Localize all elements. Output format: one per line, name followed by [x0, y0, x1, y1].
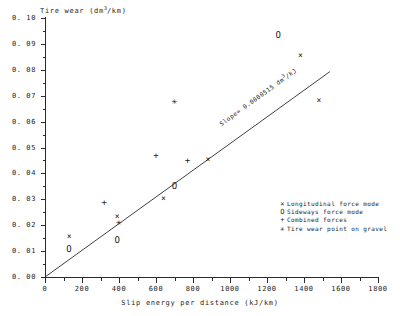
x-axis-tick-label: 1600	[331, 285, 350, 293]
x-axis-minor-tick	[138, 278, 139, 281]
y-axis-tick-label: 0. 02	[2, 221, 36, 229]
x-axis-tick-label: 200	[75, 285, 89, 293]
legend-marker-icon: ✳	[278, 225, 287, 233]
x-axis-minor-tick	[323, 278, 324, 281]
y-axis-tick-label: 0. 04	[2, 169, 36, 177]
data-point-marker: +	[101, 198, 106, 206]
y-axis-tick-label: 0. 03	[2, 195, 36, 203]
x-axis-tick	[378, 278, 379, 283]
data-point-marker: O	[275, 31, 280, 39]
x-axis-tick-label: 1000	[220, 285, 239, 293]
y-axis-tick-label: 0. 06	[2, 118, 36, 126]
legend-item: ✳Tire wear point on gravel	[278, 225, 387, 233]
y-axis-tick-label: 0. 10	[2, 14, 36, 22]
x-axis-minor-tick	[175, 278, 176, 281]
data-point-marker: ×	[67, 233, 72, 241]
y-axis-title-unit: /km)	[107, 7, 127, 15]
x-axis-tick-label: 800	[186, 285, 200, 293]
legend-marker-icon: +	[278, 216, 287, 224]
x-axis-minor-tick	[64, 278, 65, 281]
data-point-marker: O	[66, 245, 71, 253]
data-point-marker: ×	[205, 156, 210, 164]
y-axis-tick-label: 0. 00	[2, 273, 36, 281]
x-axis-minor-tick	[286, 278, 287, 281]
legend-item-label: Combined forces	[287, 216, 347, 224]
data-point-marker: ×	[298, 52, 303, 60]
y-axis-tick-label: 0. 07	[2, 92, 36, 100]
x-axis-tick	[82, 278, 83, 283]
data-point-marker: ×	[161, 195, 166, 203]
data-point-marker: O	[114, 236, 119, 244]
x-axis-tick-label: 1400	[294, 285, 313, 293]
legend-item: ×Longitudinal force mode	[278, 200, 387, 208]
x-axis-minor-tick	[249, 278, 250, 281]
data-point-marker: +	[185, 156, 190, 164]
legend-marker-icon: ×	[278, 200, 287, 208]
x-axis-tick	[341, 278, 342, 283]
data-point-marker: ✳	[116, 218, 121, 226]
x-axis-tick	[193, 278, 194, 283]
y-axis-tick-label: 0. 01	[2, 247, 36, 255]
data-point-marker: ×	[316, 97, 321, 105]
x-axis-tick	[230, 278, 231, 283]
legend-item-label: Sideways force mode	[287, 208, 363, 216]
y-axis-tick-label: 0. 05	[2, 144, 36, 152]
x-axis-tick	[45, 278, 46, 283]
legend-marker-icon: O	[278, 208, 287, 216]
x-axis-tick-label: 1800	[368, 285, 387, 293]
y-axis-title-text: Tire wear (dm	[40, 7, 104, 15]
x-axis-tick-label: 1200	[257, 285, 276, 293]
regression-fit-line	[45, 18, 378, 277]
x-axis-minor-tick	[101, 278, 102, 281]
legend-item: OSideways force mode	[278, 208, 387, 216]
x-axis-title: Slip energy per distance (kJ/km)	[0, 299, 400, 307]
x-axis-tick-label: 0	[43, 285, 48, 293]
legend-item: +Combined forces	[278, 216, 387, 224]
x-axis-tick	[156, 278, 157, 283]
x-axis-tick	[119, 278, 120, 283]
legend-item-label: Longitudinal force mode	[287, 200, 379, 208]
scatter-chart-figure: Tire wear (dm3/km) Slip energy per dista…	[0, 0, 400, 316]
x-axis-tick	[304, 278, 305, 283]
x-axis-minor-tick	[360, 278, 361, 281]
chart-legend: ×Longitudinal force modeOSideways force …	[278, 200, 387, 233]
y-axis-tick-label: 0. 08	[2, 66, 36, 74]
data-point-marker: O	[172, 182, 177, 190]
y-axis-tick-label: 0. 09	[2, 40, 36, 48]
x-axis-minor-tick	[212, 278, 213, 281]
x-axis-tick-label: 400	[112, 285, 126, 293]
legend-item-label: Tire wear point on gravel	[287, 225, 387, 233]
x-axis-tick-label: 600	[149, 285, 163, 293]
x-axis-tick	[267, 278, 268, 283]
y-axis-title: Tire wear (dm3/km)	[40, 5, 127, 15]
slope-exponent: 3	[280, 72, 286, 79]
data-point-marker: ✳	[172, 97, 177, 105]
data-point-marker: +	[153, 151, 158, 159]
plot-area: ××××××OOOO+++✳✳	[45, 18, 378, 277]
